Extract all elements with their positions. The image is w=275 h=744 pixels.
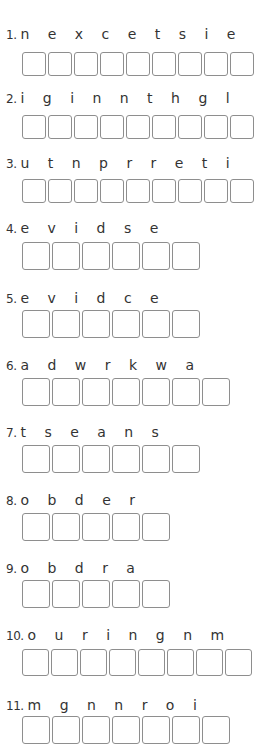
answer-letter-box[interactable] [52, 513, 80, 541]
question-number: 7. [6, 426, 16, 440]
answer-boxes [22, 242, 200, 270]
answer-letter-box[interactable] [22, 649, 49, 676]
answer-boxes [22, 513, 170, 541]
answer-letter-box[interactable] [178, 115, 202, 139]
answer-letter-box[interactable] [51, 649, 78, 676]
answer-letter-box[interactable] [112, 513, 140, 541]
answer-letter-box[interactable] [80, 649, 107, 676]
answer-letter-box[interactable] [142, 378, 170, 406]
answer-letter-box[interactable] [109, 649, 136, 676]
answer-letter-box[interactable] [48, 179, 72, 203]
answer-letter-box[interactable] [22, 580, 50, 608]
answer-letter-box[interactable] [52, 310, 80, 338]
question-label: 11.m g n n r o i [6, 697, 204, 715]
question-number: 9. [6, 562, 16, 576]
answer-letter-box[interactable] [52, 445, 80, 473]
answer-letter-box[interactable] [52, 580, 80, 608]
answer-letter-box[interactable] [112, 378, 140, 406]
answer-letter-box[interactable] [74, 115, 98, 139]
answer-letter-box[interactable] [172, 310, 200, 338]
answer-letter-box[interactable] [22, 242, 50, 270]
answer-letter-box[interactable] [126, 179, 150, 203]
answer-letter-box[interactable] [22, 115, 46, 139]
answer-letter-box[interactable] [48, 115, 72, 139]
answer-letter-box[interactable] [52, 378, 80, 406]
answer-letter-box[interactable] [142, 513, 170, 541]
answer-letter-box[interactable] [112, 445, 140, 473]
answer-letter-box[interactable] [82, 445, 110, 473]
answer-letter-box[interactable] [202, 378, 230, 406]
answer-letter-box[interactable] [138, 649, 165, 676]
answer-letter-box[interactable] [22, 445, 50, 473]
question-number: 10. [6, 629, 24, 643]
answer-boxes [22, 649, 252, 676]
question-label: 7.t s e a n s [6, 424, 166, 442]
answer-letter-box[interactable] [112, 242, 140, 270]
answer-boxes [22, 716, 230, 744]
answer-letter-box[interactable] [152, 179, 176, 203]
answer-letter-box[interactable] [142, 445, 170, 473]
answer-letter-box[interactable] [112, 716, 140, 744]
question-label: 8.o b d e r [6, 492, 142, 510]
answer-letter-box[interactable] [152, 115, 176, 139]
answer-letter-box[interactable] [82, 378, 110, 406]
answer-letter-box[interactable] [142, 580, 170, 608]
answer-letter-box[interactable] [152, 52, 176, 76]
question-number: 3. [6, 157, 16, 171]
answer-letter-box[interactable] [178, 52, 202, 76]
answer-letter-box[interactable] [52, 242, 80, 270]
answer-letter-box[interactable] [74, 179, 98, 203]
question-label: 5.e v i d c e [6, 290, 166, 308]
question-number: 5. [6, 292, 16, 306]
scrambled-letters: t s e a n s [20, 424, 165, 440]
scrambled-letters: n e x c e t s i e [20, 26, 242, 42]
answer-letter-box[interactable] [22, 513, 50, 541]
answer-letter-box[interactable] [167, 649, 194, 676]
answer-letter-box[interactable] [172, 445, 200, 473]
answer-letter-box[interactable] [230, 52, 254, 76]
answer-letter-box[interactable] [172, 378, 200, 406]
answer-letter-box[interactable] [22, 52, 46, 76]
answer-letter-box[interactable] [22, 716, 50, 744]
answer-boxes [22, 115, 254, 139]
answer-letter-box[interactable] [230, 179, 254, 203]
answer-letter-box[interactable] [172, 716, 200, 744]
question-label: 1.n e x c e t s i e [6, 26, 242, 44]
question-number: 11. [6, 699, 24, 713]
answer-letter-box[interactable] [142, 242, 170, 270]
answer-letter-box[interactable] [196, 649, 223, 676]
answer-letter-box[interactable] [82, 716, 110, 744]
answer-letter-box[interactable] [82, 310, 110, 338]
answer-letter-box[interactable] [112, 580, 140, 608]
answer-letter-box[interactable] [48, 52, 72, 76]
question-number: 6. [6, 359, 16, 373]
scrambled-letters: i g i n n t h g l [20, 90, 236, 106]
answer-letter-box[interactable] [74, 52, 98, 76]
answer-letter-box[interactable] [100, 115, 124, 139]
answer-letter-box[interactable] [22, 179, 46, 203]
answer-letter-box[interactable] [52, 716, 80, 744]
scrambled-letters: o b d e r [20, 492, 142, 508]
answer-letter-box[interactable] [82, 513, 110, 541]
answer-letter-box[interactable] [100, 52, 124, 76]
answer-letter-box[interactable] [126, 52, 150, 76]
answer-letter-box[interactable] [230, 115, 254, 139]
answer-letter-box[interactable] [22, 310, 50, 338]
answer-letter-box[interactable] [204, 115, 228, 139]
answer-letter-box[interactable] [202, 716, 230, 744]
answer-letter-box[interactable] [82, 580, 110, 608]
answer-letter-box[interactable] [204, 179, 228, 203]
answer-letter-box[interactable] [172, 242, 200, 270]
answer-letter-box[interactable] [142, 716, 170, 744]
answer-letter-box[interactable] [126, 115, 150, 139]
answer-letter-box[interactable] [225, 649, 252, 676]
question-number: 8. [6, 494, 16, 508]
answer-letter-box[interactable] [112, 310, 140, 338]
answer-letter-box[interactable] [204, 52, 228, 76]
answer-letter-box[interactable] [142, 310, 170, 338]
answer-letter-box[interactable] [178, 179, 202, 203]
answer-letter-box[interactable] [22, 378, 50, 406]
answer-letter-box[interactable] [100, 179, 124, 203]
question-number: 4. [6, 222, 16, 236]
answer-letter-box[interactable] [82, 242, 110, 270]
